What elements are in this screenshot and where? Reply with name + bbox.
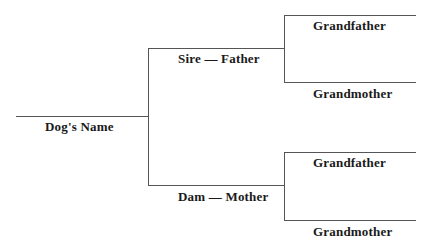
sire-connector — [284, 15, 285, 83]
sire-grandmother-line — [284, 82, 416, 83]
root-label: Dog's Name — [45, 119, 114, 135]
root-line — [16, 116, 149, 117]
dam-connector — [284, 152, 285, 221]
dam-line — [148, 185, 285, 186]
sire-label: Sire — Father — [178, 51, 260, 67]
dam-grandmother-label: Grandmother — [313, 224, 392, 240]
sire-grandmother-label: Grandmother — [313, 86, 392, 102]
sire-grandfather-line — [284, 15, 416, 16]
sire-line — [148, 48, 285, 49]
dam-grandmother-line — [284, 220, 416, 221]
dam-grandfather-label: Grandfather — [313, 155, 386, 171]
dam-grandfather-line — [284, 152, 416, 153]
sire-grandfather-label: Grandfather — [313, 18, 386, 34]
dam-label: Dam — Mother — [178, 189, 269, 205]
root-connector — [148, 48, 149, 186]
